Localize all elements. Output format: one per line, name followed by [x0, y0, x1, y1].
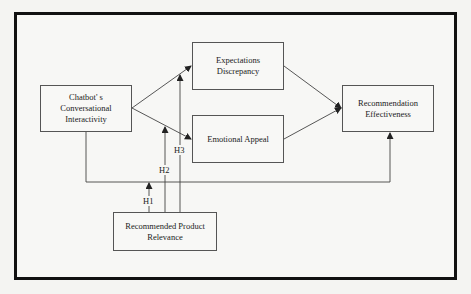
hypothesis-label-h3: H3 — [173, 145, 185, 155]
edge-chatbot-expectations — [132, 66, 191, 108]
node-label: Discrepancy — [216, 66, 260, 77]
node-recommended-product-relevance: Recommended Product Relevance — [113, 212, 217, 251]
node-recommendation-effectiveness: Recommendation Effectiveness — [342, 85, 434, 132]
node-label: Recommended Product — [125, 221, 205, 232]
node-label: Interactivity — [60, 114, 111, 125]
node-label: Conversational — [60, 103, 111, 114]
edge-emotional-recommendation — [284, 108, 341, 139]
node-label: Chatbot' s — [60, 92, 111, 103]
hypothesis-label-h2: H2 — [158, 165, 170, 175]
node-label: Effectiveness — [358, 109, 418, 120]
node-label: Recommendation — [358, 98, 418, 109]
node-emotional-appeal: Emotional Appeal — [192, 115, 284, 163]
node-label: Relevance — [125, 232, 205, 243]
node-label: Emotional Appeal — [207, 134, 269, 145]
node-chatbot-conversational-interactivity: Chatbot' s Conversational Interactivity — [40, 85, 132, 132]
hypothesis-label-h1: H1 — [142, 196, 154, 206]
node-expectations-discrepancy: Expectations Discrepancy — [192, 42, 284, 90]
edge-expectations-recommendation — [284, 66, 341, 108]
node-label: Expectations — [216, 55, 260, 66]
edge-chatbot-emotional — [132, 108, 191, 139]
